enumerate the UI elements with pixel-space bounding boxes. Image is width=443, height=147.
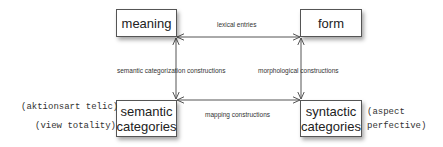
edge-label-mapping: mapping constructions	[205, 111, 270, 119]
node-syntactic-categories: syntactic categories	[300, 100, 362, 137]
edge-label-lexical-entries: lexical entries	[217, 21, 256, 29]
annotation-aktionsart-telic: (aktionsart telic)	[21, 102, 118, 113]
edge-label-morphological: morphological constructions	[258, 67, 339, 75]
node-form: form	[300, 9, 362, 37]
node-syntactic-categories-label: syntactic categories	[301, 104, 361, 134]
node-semantic-categories: semantic categories	[116, 100, 177, 137]
node-meaning-label: meaning	[122, 16, 172, 31]
annotation-perfective: perfective)	[367, 121, 426, 132]
edge-label-semantic-categorization: semantic categorization constructions	[117, 67, 225, 75]
annotation-view-totality: (view totality)	[35, 121, 116, 132]
node-meaning: meaning	[116, 9, 177, 37]
node-form-label: form	[318, 16, 344, 31]
node-semantic-categories-label: semantic categories	[117, 104, 177, 134]
annotation-aspect: (aspect	[367, 107, 405, 118]
diagram-canvas: meaning form semantic categories syntact…	[0, 0, 443, 147]
